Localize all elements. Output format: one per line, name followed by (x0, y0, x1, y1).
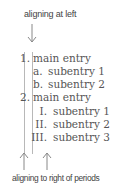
list-text: subentry 2 (48, 78, 105, 90)
list-text: main entry (33, 52, 91, 64)
list-marker: b. (33, 78, 43, 90)
list-text: subentry 2 (53, 118, 110, 130)
up-arrow-icon (19, 152, 29, 170)
label-aligning-at-left: aligning at left (24, 9, 76, 19)
up-arrow-icon (42, 152, 52, 170)
list-marker: III. (25, 131, 47, 143)
list-text: subentry 1 (48, 65, 105, 77)
list-text: subentry 3 (53, 131, 110, 143)
list-marker: II. (25, 118, 47, 130)
list-marker: a. (33, 65, 43, 77)
list-marker: 2. (11, 91, 30, 103)
list-text: subentry 1 (53, 105, 110, 117)
list-marker: 1. (11, 52, 30, 64)
list-marker: I. (25, 105, 47, 117)
down-arrow-icon (27, 24, 37, 44)
label-aligning-right-of-periods: aligning to right of periods (12, 173, 100, 183)
list-text: main entry (33, 91, 91, 103)
